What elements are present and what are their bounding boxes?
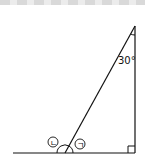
apex-angle-arc bbox=[131, 34, 135, 35]
label-nieun: ㄴ bbox=[50, 139, 57, 148]
right-angle-marker bbox=[128, 146, 135, 153]
hypotenuse bbox=[65, 26, 135, 153]
triangle-diagram: 30° ㄴ ㄱ bbox=[0, 0, 145, 168]
angle-arc-right bbox=[69, 146, 73, 153]
angle-30-label: 30° bbox=[118, 55, 136, 66]
label-giyeok: ㄱ bbox=[77, 141, 84, 150]
